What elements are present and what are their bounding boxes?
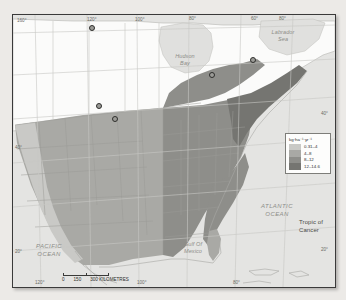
gulf-label-line2: Mexico (171, 248, 215, 255)
graticule-label-top-6: 80° (279, 16, 286, 21)
scale-bar-zero: 0 (62, 277, 65, 282)
labrador-sea-label-line1: Labrador (261, 29, 305, 36)
graticule-label-top-5: 60° (251, 16, 258, 21)
graticule-label-top-4: 80° (189, 16, 196, 21)
legend-swatch-4 (289, 163, 301, 170)
labrador-sea-label-line2: Sea (261, 36, 305, 43)
monitoring-site-marker-1[interactable] (89, 25, 95, 31)
gulf-of-mexico-label: Gulf Of Mexico (171, 241, 215, 255)
map-figure: 160° 120° 100° 80° 60° 80° 40° 20° 40° 2… (0, 0, 346, 300)
graticule-label-right-2: 20° (321, 247, 328, 252)
legend-label-2: 4–8 (304, 151, 311, 156)
scale-bar-max: 300 (90, 277, 98, 282)
legend-label-4: 12–14.6 (304, 164, 320, 169)
graticule-label-bottom-2: 100° (137, 280, 147, 285)
gulf-label-line1: Gulf Of (171, 241, 215, 248)
legend-rows: 0.31–4 4–8 8–12 12–14.6 (289, 144, 327, 170)
scale-bar-mid: 150 (74, 277, 82, 282)
pacific-ocean-label: PACIFIC OCEAN (27, 243, 71, 258)
graticule-label-bottom-3: 80° (233, 280, 240, 285)
atlantic-label-line1: ATLANTIC (251, 203, 303, 211)
graticule-label-top-3: 100° (135, 17, 145, 22)
scale-bar-labels: 0150300 KILOMETRES (62, 277, 129, 282)
legend-row: 12–14.6 (289, 163, 327, 170)
scale-bar-units: KILOMETRES (99, 277, 129, 282)
graticule-label-bottom-1: 120° (35, 280, 45, 285)
graticule-label-right-1: 40° (321, 111, 328, 116)
caribbean-islands (243, 269, 309, 283)
tropic-label-line1: Tropic of (299, 218, 333, 226)
map-legend: kg·ha⁻¹·yr⁻¹ 0.31–4 4–8 8–12 (285, 133, 331, 174)
tropic-label-line2: Cancer (299, 226, 333, 234)
legend-label-3: 8–12 (304, 157, 314, 162)
pacific-label-line2: OCEAN (27, 251, 71, 259)
monitoring-site-marker-5[interactable] (250, 57, 256, 63)
scale-bar-tick-mid (86, 273, 87, 276)
graticule-label-left-2: 20° (15, 249, 22, 254)
graticule-label-top-1: 160° (17, 18, 27, 23)
atlantic-label-line2: OCEAN (251, 211, 303, 219)
hudson-bay-label-line2: Bay (165, 60, 205, 67)
monitoring-site-marker-4[interactable] (209, 72, 215, 78)
map-canvas: 160° 120° 100° 80° 60° 80° 40° 20° 40° 2… (13, 15, 335, 287)
legend-title: kg·ha⁻¹·yr⁻¹ (289, 137, 327, 142)
graticule-label-left-1: 40° (15, 145, 22, 150)
hudson-bay-label: Hudson Bay (165, 53, 205, 67)
tropic-of-cancer-label: Tropic of Cancer (299, 218, 333, 234)
graticule-label-top-2: 120° (87, 17, 97, 22)
hudson-bay-label-line1: Hudson (165, 53, 205, 60)
monitoring-site-marker-2[interactable] (96, 103, 102, 109)
labrador-sea-label: Labrador Sea (261, 29, 305, 43)
monitoring-site-marker-3[interactable] (112, 116, 118, 122)
legend-label-1: 0.31–4 (304, 144, 317, 149)
atlantic-ocean-label: ATLANTIC OCEAN (251, 203, 303, 218)
pacific-label-line1: PACIFIC (27, 243, 71, 251)
map-frame: 160° 120° 100° 80° 60° 80° 40° 20° 40° 2… (12, 14, 336, 288)
